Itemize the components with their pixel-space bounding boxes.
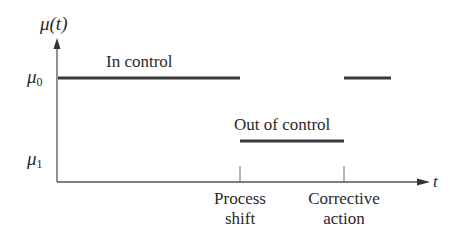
mu0-label: μ0	[27, 68, 43, 91]
mu0-symbol: μ	[27, 66, 37, 87]
mu1-symbol: μ	[27, 148, 37, 169]
mu1-label: μ1	[27, 150, 43, 173]
x-axis-label: t	[433, 173, 438, 191]
process-shift-label: Process shift	[200, 189, 280, 229]
out-of-control-annotation: Out of control	[234, 116, 330, 134]
process-shift-line1: Process	[200, 189, 280, 209]
y-axis-arrow-icon	[54, 38, 61, 49]
in-control-annotation: In control	[106, 53, 173, 71]
process-shift-line2: shift	[200, 209, 280, 229]
y-axis-label: μ(t)	[40, 15, 67, 33]
corrective-action-line2: action	[294, 209, 394, 229]
x-axis-arrow-icon	[417, 179, 430, 186]
mu1-subscript: 1	[37, 157, 43, 171]
corrective-action-line1: Corrective	[294, 189, 394, 209]
mu0-subscript: 0	[37, 75, 43, 89]
corrective-action-label: Corrective action	[294, 189, 394, 229]
